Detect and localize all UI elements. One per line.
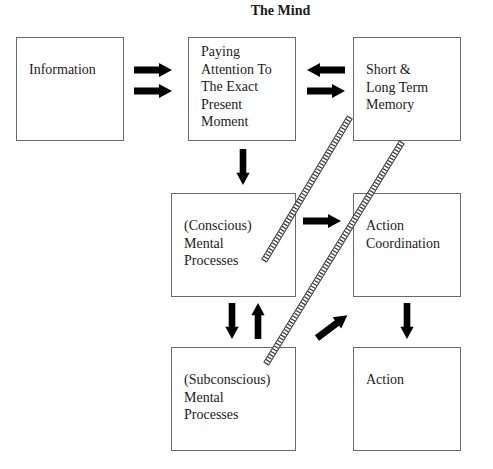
arrow-right-icon [303,214,341,228]
ladder-connector-conscious-memory [264,117,350,261]
arrow-left-icon [307,63,345,77]
arrow-down-icon [400,303,413,339]
arrow-down-icon [225,303,238,339]
arrow-right-icon [134,84,172,98]
arrow-right-icon [307,84,345,98]
edges-layer [0,0,493,469]
arrow-right-icon [134,63,172,77]
arrow-diagonal-icon [313,310,352,344]
ladder-connector-subconscious-memory [266,142,402,364]
arrow-up-icon [251,303,264,339]
arrow-down-icon [236,149,249,185]
